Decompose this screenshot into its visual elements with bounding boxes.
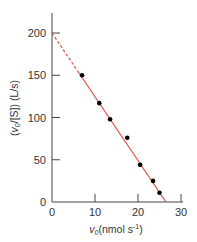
y-tick-label: 150 [28,69,46,81]
x-tick-label: 30 [175,206,187,218]
y-axis-label: (v0/[S]) (L/s) [8,80,21,136]
data-point [138,163,143,168]
data-point [157,190,162,195]
eadie-hofstee-plot: 050100150200 0102030 (v0/[S]) (L/s) v0(n… [0,0,197,242]
y-tick-label: 0 [40,196,46,208]
data-point [151,179,156,184]
data-point [125,135,130,140]
x-tick-label: 20 [132,206,144,218]
x-tick-label: 0 [49,206,55,218]
fit-line-extrapolated [52,33,78,71]
y-tick-label: 100 [28,112,46,124]
x-tick-label: 10 [89,206,101,218]
data-point [97,101,102,106]
data-point [108,117,113,122]
y-tick-label: 50 [34,154,46,166]
y-axis-ticks: 050100150200 [28,27,60,208]
x-axis-label: v0(nmol s-1) [89,223,142,236]
y-tick-label: 200 [28,27,46,39]
data-point [80,73,85,78]
x-axis-ticks: 0102030 [49,194,187,218]
